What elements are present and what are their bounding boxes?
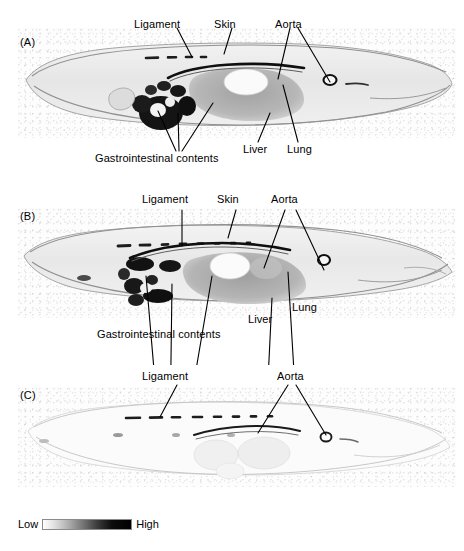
panel-a-label-lung: Lung — [287, 143, 312, 155]
autoradiograph-figure: (A) — [0, 0, 464, 551]
panel-a-label-liver: Liver — [243, 143, 267, 155]
panel-c-autoradiograph-image — [18, 387, 456, 487]
scale-bar-high-label: High — [136, 519, 159, 530]
panel-a-label-gastrointestinal-contents: Gastrointestinal contents — [95, 152, 219, 164]
panel-c-label-aorta: Aorta — [277, 370, 304, 382]
panel-b-autoradiograph-image — [18, 208, 456, 318]
panel-a: (A) — [0, 0, 464, 180]
scale-bar-low-label: Low — [18, 519, 38, 530]
tissue-section-c — [18, 387, 456, 487]
panel-b-label: (B) — [20, 210, 35, 222]
panel-a-autoradiograph-image — [18, 28, 456, 138]
panel-a-label-ligament: Ligament — [134, 18, 180, 30]
panel-b-label-liver: Liver — [248, 313, 272, 325]
panel-a-label-aorta: Aorta — [275, 18, 302, 30]
tissue-section-b — [18, 208, 456, 318]
panel-b-label-lung: Lung — [292, 301, 317, 313]
panel-a-label: (A) — [20, 36, 35, 48]
panel-b-label-skin: Skin — [217, 193, 239, 205]
panel-c-label-ligament: Ligament — [142, 370, 188, 382]
intensity-scale-bar: Low High — [18, 519, 159, 530]
panel-c-label: (C) — [20, 389, 36, 401]
panel-b-label-ligament: Ligament — [142, 193, 188, 205]
panel-b: (B) — [0, 180, 464, 365]
panel-c: (C) — [0, 365, 464, 505]
panel-b-label-gastrointestinal-contents: Gastrointestinal contents — [97, 328, 221, 340]
panel-a-label-skin: Skin — [214, 18, 236, 30]
scale-bar-gradient — [42, 519, 132, 530]
tissue-section-a — [18, 28, 456, 138]
panel-b-label-aorta: Aorta — [271, 193, 298, 205]
